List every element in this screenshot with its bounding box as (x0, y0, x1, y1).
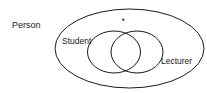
asterisk-marker: * (122, 16, 126, 26)
lecturer-circle (111, 31, 163, 73)
student-label: Student (62, 36, 92, 46)
student-circle (88, 31, 141, 73)
lecturer-label: Lecturer (161, 56, 192, 66)
venn-diagram: Person Student Lecturer * (0, 0, 207, 93)
person-label: Person (12, 20, 41, 30)
person-ellipse (55, 9, 204, 88)
